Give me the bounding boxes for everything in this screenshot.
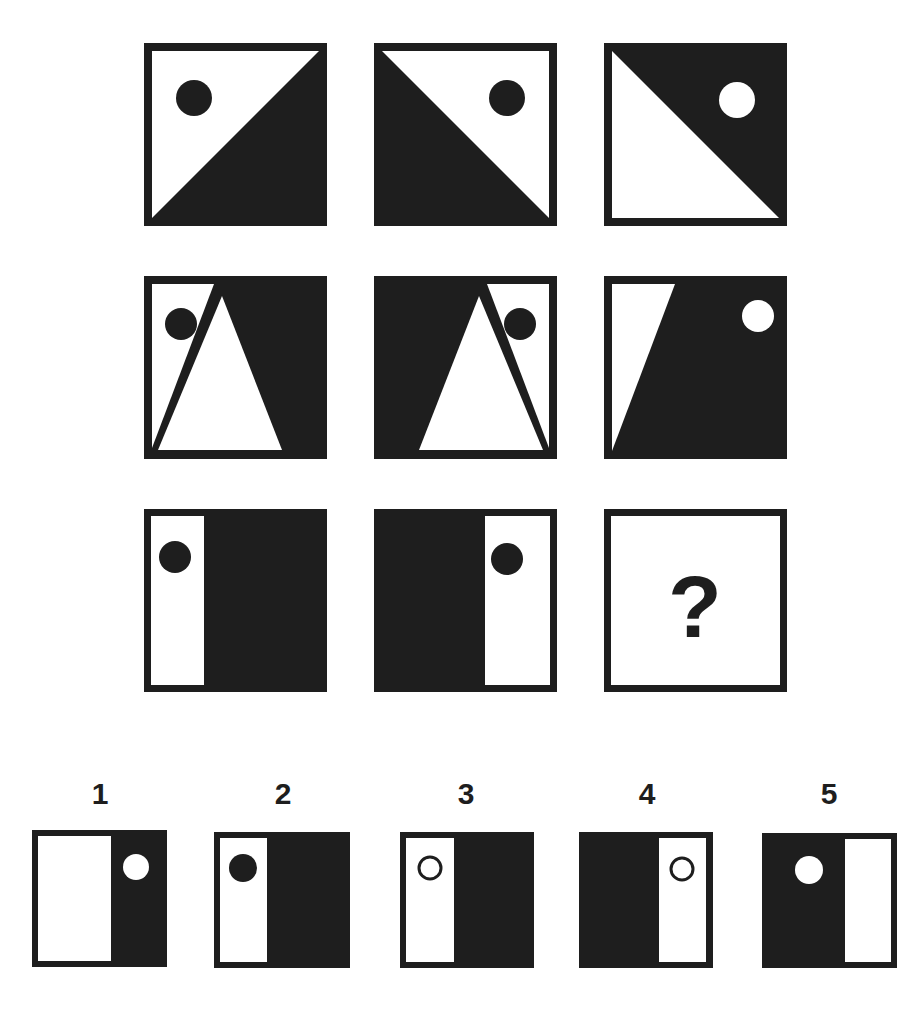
black-dot-icon — [176, 80, 212, 116]
split-pattern-icon — [32, 830, 167, 967]
answer-option-5[interactable] — [762, 833, 897, 968]
answer-option-4[interactable] — [579, 832, 713, 968]
triangle-pattern-icon — [374, 276, 557, 459]
split-pattern-icon — [579, 832, 713, 968]
answer-option-2[interactable] — [214, 832, 350, 968]
black-dot-icon — [504, 308, 536, 340]
answer-label-1: 1 — [70, 777, 130, 811]
matrix-cell-r2c3 — [604, 276, 787, 459]
split-pattern-icon — [762, 833, 897, 968]
black-dot-icon — [489, 80, 525, 116]
matrix-cell-r1c1 — [144, 43, 327, 226]
split-pattern-icon — [374, 509, 557, 692]
hollow-ring-icon — [419, 857, 441, 879]
matrix-cell-r3c3-missing: ? — [604, 509, 787, 692]
white-dot-icon — [123, 854, 149, 880]
answer-option-3[interactable] — [400, 832, 534, 968]
matrix-cell-r1c3 — [604, 43, 787, 226]
svg-text:?: ? — [668, 557, 722, 656]
question-mark-icon: ? — [604, 509, 787, 692]
answer-label-5: 5 — [799, 777, 859, 811]
diagonal-pattern-icon — [374, 43, 557, 226]
split-pattern-icon — [400, 832, 534, 968]
diagonal-pattern-icon — [144, 43, 327, 226]
black-dot-icon — [229, 854, 257, 882]
matrix-cell-r2c1 — [144, 276, 327, 459]
answer-label-4: 4 — [617, 777, 677, 811]
split-pattern-icon — [214, 832, 350, 968]
matrix-cell-r3c2 — [374, 509, 557, 692]
black-dot-icon — [165, 308, 197, 340]
triangle-pattern-icon — [604, 276, 787, 459]
black-dot-icon — [159, 541, 191, 573]
white-dot-icon — [795, 856, 823, 884]
diagonal-pattern-icon — [604, 43, 787, 226]
split-pattern-icon — [144, 509, 327, 692]
answer-option-1[interactable] — [32, 830, 167, 967]
white-dot-icon — [742, 300, 774, 332]
hollow-ring-icon — [671, 858, 693, 880]
white-dot-icon — [719, 82, 755, 118]
black-dot-icon — [491, 543, 523, 575]
matrix-cell-r3c1 — [144, 509, 327, 692]
answer-label-3: 3 — [436, 777, 496, 811]
matrix-cell-r2c2 — [374, 276, 557, 459]
triangle-pattern-icon — [144, 276, 327, 459]
answer-label-2: 2 — [253, 777, 313, 811]
matrix-cell-r1c2 — [374, 43, 557, 226]
